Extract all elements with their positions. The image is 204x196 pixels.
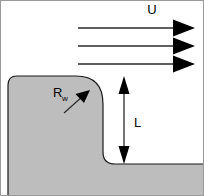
figure-container: U R w L — [0, 0, 204, 196]
radius-label-subscript: w — [61, 94, 68, 103]
schematic-diagram: U R w L — [0, 0, 204, 196]
flow-arrows-group — [78, 20, 195, 73]
radius-label-base: R — [53, 85, 62, 100]
velocity-label: U — [147, 2, 156, 17]
length-label: L — [134, 115, 141, 130]
